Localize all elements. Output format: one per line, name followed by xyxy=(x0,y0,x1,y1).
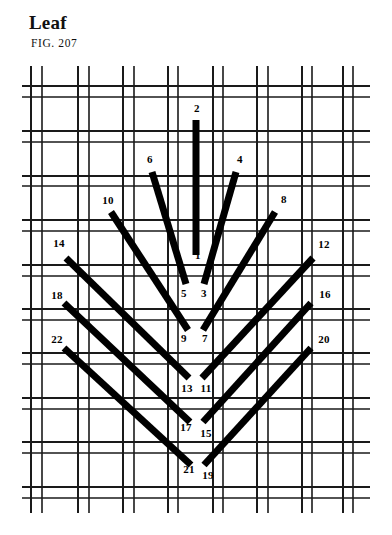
diagram-svg xyxy=(0,0,392,535)
stitch-number-7: 7 xyxy=(202,333,208,344)
stitch-number-3: 3 xyxy=(201,288,207,299)
stitch-number-16: 16 xyxy=(319,289,331,300)
stitch-number-17: 17 xyxy=(180,422,192,433)
stitch-number-20: 20 xyxy=(318,334,330,345)
stitch-number-5: 5 xyxy=(181,288,187,299)
figure-page: Leaf FIG. 207 26410811412531816972220131… xyxy=(0,0,392,535)
stitch-number-4: 4 xyxy=(237,154,243,165)
stitch-number-9: 9 xyxy=(181,333,187,344)
stitch-number-13: 13 xyxy=(181,383,193,394)
stitch-number-1: 1 xyxy=(195,250,201,261)
stitch-line xyxy=(204,172,236,284)
stitch-number-14: 14 xyxy=(53,238,65,249)
stitch-number-19: 19 xyxy=(202,470,214,481)
stitch-number-18: 18 xyxy=(51,290,63,301)
stitch-number-22: 22 xyxy=(51,334,63,345)
stitch-lines xyxy=(64,120,313,465)
stitch-number-6: 6 xyxy=(147,154,153,165)
stitch-diagram: 26410811412531816972220131117152119 xyxy=(0,0,392,535)
stitch-number-8: 8 xyxy=(281,194,287,205)
stitch-number-12: 12 xyxy=(318,239,330,250)
stitch-number-2: 2 xyxy=(194,103,200,114)
stitch-number-15: 15 xyxy=(200,428,212,439)
stitch-number-10: 10 xyxy=(102,195,114,206)
stitch-number-21: 21 xyxy=(183,464,195,475)
stitch-number-11: 11 xyxy=(201,383,212,394)
